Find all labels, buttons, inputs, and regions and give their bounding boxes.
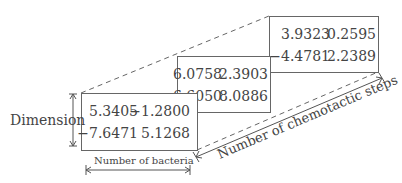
- matrix-middle-cell: 2.3903: [206, 66, 268, 82]
- matrix-back-cell: 2.2389: [314, 48, 376, 64]
- dimension-label: Dimension: [10, 112, 85, 128]
- matrix-middle-cell: 8.0886: [206, 88, 268, 104]
- matrix-front-cell: 5.1268: [128, 125, 190, 141]
- matrix-back-cell: 0.2595: [314, 26, 376, 42]
- matrix-back: 3.9323 0.2595 −4.4781 2.2389: [269, 16, 379, 73]
- matrix-front: 5.3405 −1.2800 −7.6471 5.1268: [81, 93, 198, 151]
- bacteria-label: Number of bacteria: [94, 155, 194, 166]
- matrix-front-cell: −1.2800: [128, 103, 190, 119]
